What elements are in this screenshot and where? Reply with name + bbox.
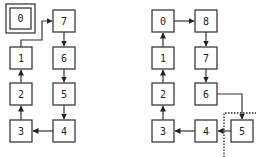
edge-6-5 — [217, 94, 242, 119]
diagram-canvas: 0 7 1 6 2 5 3 4 0 8 1 7 2 6 3 4 5 — [0, 0, 256, 157]
left-diagram: 0 7 1 6 2 5 3 4 — [6, 4, 75, 142]
node-label: 2 — [18, 89, 24, 100]
node-label: 0 — [17, 13, 23, 24]
node-label: 0 — [160, 16, 166, 27]
node-label: 7 — [61, 16, 67, 27]
node-label: 2 — [160, 89, 166, 100]
node-label: 8 — [203, 16, 209, 27]
node-3[interactable]: 3 — [152, 120, 174, 142]
node-5[interactable]: 5 — [53, 83, 75, 105]
node-label: 1 — [18, 53, 24, 64]
node-8[interactable]: 8 — [195, 10, 217, 32]
node-label: 5 — [61, 89, 67, 100]
node-label: 7 — [203, 53, 209, 64]
node-4[interactable]: 4 — [195, 120, 217, 142]
node-0[interactable]: 0 — [10, 8, 31, 29]
node-1[interactable]: 1 — [152, 47, 174, 69]
node-4[interactable]: 4 — [53, 120, 75, 142]
node-label: 4 — [61, 126, 67, 137]
node-label: 1 — [160, 53, 166, 64]
node-0[interactable]: 0 — [152, 10, 174, 32]
node-label: 5 — [239, 126, 245, 137]
node-5[interactable]: 5 — [231, 120, 253, 142]
node-label: 6 — [203, 89, 209, 100]
node-2[interactable]: 2 — [10, 83, 32, 105]
node-7[interactable]: 7 — [53, 10, 75, 32]
node-label: 4 — [203, 126, 209, 137]
node-label: 3 — [18, 126, 24, 137]
node-3[interactable]: 3 — [10, 120, 32, 142]
node-1[interactable]: 1 — [10, 47, 32, 69]
node-label: 3 — [160, 126, 166, 137]
node-6[interactable]: 6 — [53, 47, 75, 69]
right-diagram: 0 8 1 7 2 6 3 4 5 — [152, 10, 256, 157]
node-label: 6 — [61, 53, 67, 64]
node-6[interactable]: 6 — [195, 83, 217, 105]
node-7[interactable]: 7 — [195, 47, 217, 69]
node-2[interactable]: 2 — [152, 83, 174, 105]
